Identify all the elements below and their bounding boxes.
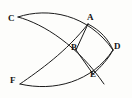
point-label-c: C: [8, 14, 15, 23]
figure-canvas: [0, 0, 132, 98]
point-label-d: D: [114, 42, 121, 51]
point-label-f: F: [10, 76, 16, 85]
segment-a-to-b: [76, 24, 88, 50]
point-label-b: B: [71, 43, 77, 52]
arc-f-to-a: [20, 24, 88, 84]
point-label-a: A: [87, 13, 94, 22]
geometry-diagram: C A B D E F: [0, 0, 132, 98]
point-label-e: E: [90, 70, 96, 79]
